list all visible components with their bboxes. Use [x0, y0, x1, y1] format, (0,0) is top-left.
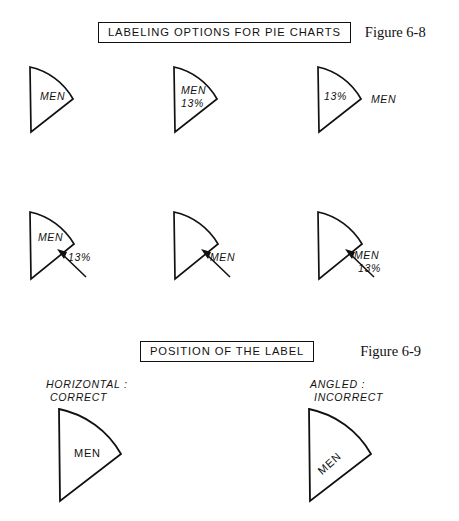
- pie-wedge-shape: [292, 378, 442, 508]
- wedge-men-inside: MEN: [24, 60, 154, 145]
- wedge-label-men: MEN: [74, 447, 101, 461]
- wedge-label-men: MEN: [40, 90, 65, 103]
- wedge-label-percent-external: 13%: [68, 251, 91, 264]
- wedge-men-pct-inside: MEN 13%: [168, 60, 298, 145]
- pie-wedge-shape: [24, 205, 164, 293]
- wedge-men-inside-pct-arrow: MEN 13%: [24, 205, 164, 293]
- wedge-label-men-external: MEN: [371, 93, 396, 106]
- figure-6-8-number: Figure 6-8: [365, 24, 426, 41]
- example-horizontal: HORIZONTAL : CORRECT MEN: [42, 378, 192, 508]
- wedge-label-percent: 13%: [181, 97, 204, 110]
- figure-6-8-title-box: LABELING OPTIONS FOR PIE CHARTS: [98, 22, 351, 43]
- pie-wedge-shape: [168, 205, 308, 293]
- wedge-men-pct-arrow: MEN 13%: [312, 205, 452, 293]
- wedge-label-men-external: MEN: [210, 251, 235, 264]
- wedge-label-men: MEN: [181, 84, 206, 97]
- wedge-label-percent-external: 13%: [358, 262, 381, 275]
- wedge-label-percent: 13%: [324, 90, 347, 103]
- wedge-label-men-external: MEN: [354, 249, 379, 262]
- wedge-label-men: MEN: [38, 231, 63, 244]
- figure-6-8-caption-row: LABELING OPTIONS FOR PIE CHARTS Figure 6…: [98, 22, 426, 43]
- wedge-men-arrow: MEN: [168, 205, 308, 293]
- pie-wedge-shape: [42, 378, 192, 508]
- example-angled: ANGLED : INCORRECT MEN: [292, 378, 442, 508]
- wedge-pct-inside-men-outside: 13% MEN: [312, 60, 452, 145]
- figure-6-9-title-box: POSITION OF THE LABEL: [140, 341, 314, 362]
- pie-wedge-shape: [312, 205, 452, 293]
- figure-6-9-caption-row: POSITION OF THE LABEL Figure 6-9: [140, 341, 421, 362]
- figure-sheet: LABELING OPTIONS FOR PIE CHARTS Figure 6…: [0, 0, 459, 521]
- figure-6-9-number: Figure 6-9: [360, 343, 421, 360]
